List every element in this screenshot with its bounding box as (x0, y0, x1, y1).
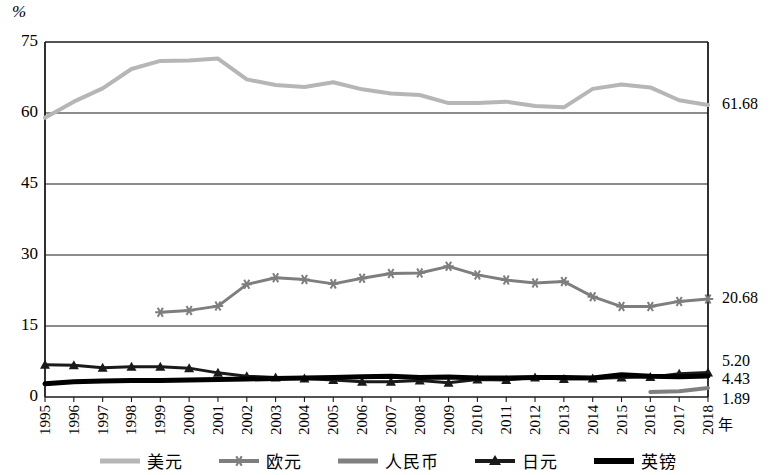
x-axis-title: 年 (718, 413, 733, 434)
legend-label-欧元: 欧元 (266, 448, 302, 473)
legend-swatch-英镑-icon (592, 453, 636, 469)
x-tick-label-2003: 2003 (268, 405, 285, 435)
series-marker-1 (299, 275, 309, 284)
end-label-欧元: 20.68 (722, 289, 758, 307)
legend-swatch-美元-icon (98, 453, 142, 469)
y-tick-label-30: 30 (2, 244, 38, 264)
series-marker-1 (674, 297, 684, 306)
x-tick-label-2006: 2006 (354, 405, 371, 435)
series-marker-1 (155, 308, 165, 317)
series-marker-1 (184, 306, 194, 315)
series-marker-1 (386, 269, 396, 278)
currency-share-line-chart: % 01530456075 19951996199719981999200020… (0, 0, 775, 475)
x-tick-label-1997: 1997 (95, 405, 112, 435)
series-marker-1 (443, 262, 453, 271)
y-tick-label-15: 15 (2, 315, 38, 335)
x-tick-label-2013: 2013 (556, 405, 573, 435)
x-tick-label-2018: 2018 (700, 405, 717, 435)
legend-swatch-日元-icon (473, 453, 517, 469)
x-tick-label-2011: 2011 (498, 405, 515, 434)
y-tick-label-60: 60 (2, 102, 38, 122)
x-tick-label-2000: 2000 (181, 405, 198, 435)
x-tick-label-2014: 2014 (585, 405, 602, 435)
x-tick-label-2017: 2017 (671, 405, 688, 435)
series-0 (45, 59, 708, 118)
x-tick-label-1999: 1999 (152, 405, 169, 435)
legend-item-英镑[interactable]: 英镑 (592, 448, 677, 473)
legend-label-美元: 美元 (147, 448, 183, 473)
x-tick-label-1995: 1995 (37, 405, 54, 435)
x-tick-label-2009: 2009 (441, 405, 458, 435)
x-tick-label-2001: 2001 (210, 405, 227, 435)
series-marker-1 (645, 302, 655, 311)
series-marker-1 (328, 279, 338, 288)
x-tick-label-2012: 2012 (527, 405, 544, 435)
x-tick-label-2005: 2005 (325, 405, 342, 435)
chart-legend: 美元欧元人民币日元英镑 (0, 446, 775, 475)
y-tick-label-0: 0 (2, 386, 38, 406)
x-tick-label-2008: 2008 (412, 405, 429, 435)
legend-item-人民币[interactable]: 人民币 (336, 448, 439, 473)
series-line-0 (45, 59, 708, 118)
legend-item-美元[interactable]: 美元 (98, 448, 183, 473)
legend-label-日元: 日元 (522, 448, 558, 473)
series-line-1 (160, 266, 708, 312)
series-marker-1 (530, 278, 540, 287)
end-label-日元: 5.20 (722, 352, 750, 370)
series-1 (155, 262, 713, 317)
series-marker-1 (472, 270, 482, 279)
x-tick-label-2004: 2004 (296, 405, 313, 435)
x-tick-label-2016: 2016 (642, 405, 659, 435)
series-marker-1 (270, 273, 280, 282)
x-tick-label-2010: 2010 (469, 405, 486, 435)
end-label-人民币: 1.89 (722, 390, 750, 408)
legend-marker-asterisk-icon (234, 456, 245, 465)
legend-swatch-欧元-icon (217, 453, 261, 469)
plot-area (0, 0, 775, 475)
series-line-2 (650, 388, 708, 392)
series-2 (650, 388, 708, 392)
series-marker-1 (415, 268, 425, 277)
legend-item-欧元[interactable]: 欧元 (217, 448, 302, 473)
y-axis-unit-label: % (12, 2, 26, 22)
y-tick-label-75: 75 (2, 31, 38, 51)
series-marker-1 (357, 274, 367, 283)
end-label-美元: 61.68 (722, 95, 758, 113)
x-tick-label-2002: 2002 (239, 405, 256, 435)
x-tick-label-1996: 1996 (66, 405, 83, 435)
legend-label-人民币: 人民币 (385, 448, 439, 473)
legend-swatch-人民币-icon (336, 453, 380, 469)
x-tick-label-1998: 1998 (123, 405, 140, 435)
series-marker-1 (616, 302, 626, 311)
end-label-英镑: 4.43 (722, 370, 750, 388)
legend-label-英镑: 英镑 (641, 448, 677, 473)
x-tick-label-2007: 2007 (383, 405, 400, 435)
y-tick-label-45: 45 (2, 173, 38, 193)
x-tick-label-2015: 2015 (614, 405, 631, 435)
series-marker-1 (501, 276, 511, 285)
legend-item-日元[interactable]: 日元 (473, 448, 558, 473)
